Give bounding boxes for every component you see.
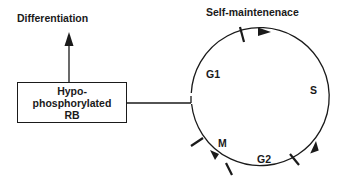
- hypophosphorylated-rb-box: Hypo- phosphorylated RB: [17, 82, 127, 123]
- differentiation-arrowhead-icon: [65, 32, 74, 46]
- m-g1-boundary-tick: [191, 138, 203, 146]
- s-g2-boundary-tick: [290, 154, 299, 165]
- cell-cycle-circle: [191, 28, 329, 166]
- g2-m-boundary-tick: [226, 163, 232, 175]
- phase-g1-label: G1: [206, 68, 220, 80]
- phase-g2-label: G2: [257, 153, 271, 165]
- box-line-2: phosphorylated: [18, 98, 126, 110]
- phase-s-label: S: [310, 84, 317, 96]
- box-line-3: RB: [18, 110, 126, 122]
- box-line-1: Hypo-: [18, 86, 126, 98]
- phase-m-label: M: [218, 137, 227, 149]
- differentiation-label: Differentiation: [17, 12, 88, 24]
- self-maintenance-label: Self-maintenenace: [206, 6, 299, 18]
